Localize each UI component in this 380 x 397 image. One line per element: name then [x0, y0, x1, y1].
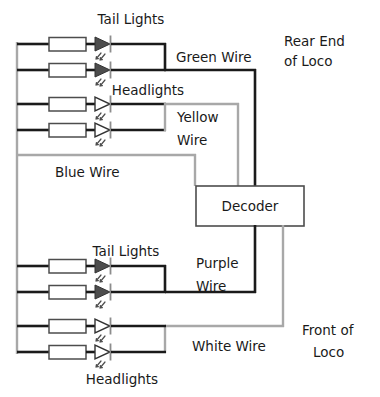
resistor-rear-tail-2	[49, 64, 86, 78]
led-rear-tail-2	[95, 63, 110, 77]
front-head-branch-1	[17, 318, 166, 343]
led-front-head-1	[95, 319, 110, 333]
label-front-end-line1: Front of	[302, 322, 355, 338]
label-white-wire: White Wire	[192, 338, 266, 354]
led-front-head-2	[95, 345, 110, 359]
label-yellow-wire-line1: Yellow	[176, 109, 219, 125]
wiring-diagram: Tail Lights Green Wire Rear End of Loco …	[0, 0, 380, 397]
label-tail-lights-front: Tail Lights	[92, 243, 160, 259]
led-rear-head-1	[95, 97, 110, 111]
led-front-tail-1	[95, 259, 110, 273]
label-decoder: Decoder	[222, 198, 279, 214]
label-rear-end-line2: of Loco	[284, 53, 333, 69]
rear-head-branch-1	[17, 96, 166, 121]
label-yellow-wire-line2: Wire	[177, 132, 207, 148]
label-tail-lights-rear: Tail Lights	[97, 11, 165, 27]
label-headlights-front: Headlights	[86, 371, 158, 387]
label-blue-wire: Blue Wire	[55, 164, 120, 180]
resistor-front-tail-2	[49, 286, 86, 300]
label-green-wire: Green Wire	[176, 49, 252, 65]
label-headlights-rear: Headlights	[112, 82, 184, 98]
rear-tail-branch-1	[17, 36, 166, 61]
resistor-front-head-2	[49, 346, 86, 360]
resistor-rear-tail-1	[49, 38, 86, 52]
label-purple-wire-line2: Wire	[196, 278, 226, 294]
led-front-tail-2	[95, 285, 110, 299]
led-rear-head-2	[95, 123, 110, 137]
resistor-rear-head-2	[49, 124, 86, 138]
front-head-branch-2	[17, 344, 166, 369]
front-tail-branch-2	[17, 284, 166, 309]
rear-head-branch-2	[17, 122, 166, 147]
resistor-front-tail-1	[49, 260, 86, 274]
label-rear-end-line1: Rear End	[284, 33, 345, 49]
front-tail-branch-1	[17, 258, 166, 283]
diagram-canvas: Tail Lights Green Wire Rear End of Loco …	[0, 0, 380, 397]
resistor-front-head-1	[49, 320, 86, 334]
label-front-end-line2: Loco	[313, 344, 344, 360]
resistor-rear-head-1	[49, 98, 86, 112]
led-rear-tail-1	[95, 37, 110, 51]
label-purple-wire-line1: Purple	[196, 255, 239, 271]
